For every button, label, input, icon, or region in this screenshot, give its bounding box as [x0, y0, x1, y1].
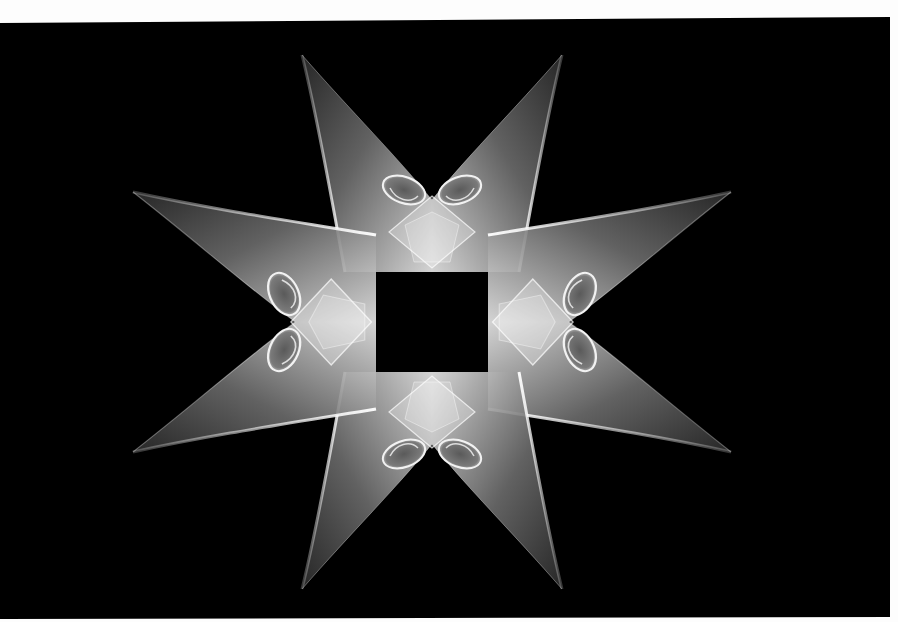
- artwork-frame: [0, 0, 898, 622]
- black-background: [0, 17, 890, 619]
- fractal-star-image: [0, 0, 898, 622]
